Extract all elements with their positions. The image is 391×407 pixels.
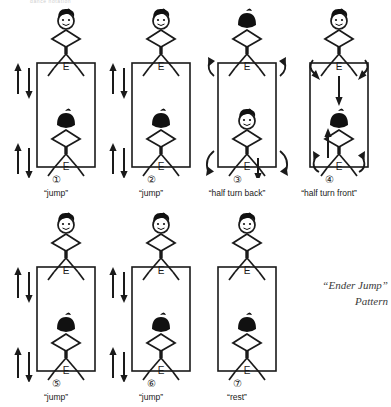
notation-sheet: dance notation E <box>0 0 391 407</box>
panel-5-label: “jump” <box>8 392 104 402</box>
panel-6-number: ⑥ <box>103 378 199 389</box>
panel-1-number: ① <box>8 174 104 185</box>
panel-5-art: E E <box>8 212 104 382</box>
arrow-pair-lower <box>14 347 32 382</box>
panel-7-label: “rest” <box>189 392 285 402</box>
foot-mark-top: E <box>158 61 165 72</box>
panel-1: E E ① “jump” <box>8 8 104 194</box>
pattern-title-line1: “Ender Jump” <box>288 278 388 294</box>
panel-7: E E ⑦ “rest” <box>198 212 294 398</box>
curved-arrow-bottom-right-out <box>358 151 365 172</box>
panel-3-number: ③ <box>189 174 285 185</box>
foot-mark-top: E <box>336 61 343 72</box>
panel-7-art: E E <box>198 212 294 382</box>
arrow-pair-upper <box>109 63 127 99</box>
panel-7-number: ⑦ <box>189 378 285 389</box>
panel-3: E E <box>198 8 294 194</box>
foot-mark-top: E <box>158 265 165 276</box>
foot-mark-top: E <box>63 265 70 276</box>
pattern-title-line2: Pattern <box>288 294 388 310</box>
panel-2: E E ② “jump” <box>103 8 199 194</box>
page-header-fragment: dance notation <box>30 0 71 4</box>
foot-mark-top: E <box>244 265 251 276</box>
foot-mark-top: E <box>244 61 251 72</box>
panel-1-art: E E <box>8 8 104 178</box>
arrow-down-center <box>335 76 342 106</box>
panel-6-art: E E <box>103 212 199 382</box>
panel-5-number: ⑤ <box>8 378 104 389</box>
arrow-pair-lower <box>109 143 127 178</box>
foot-mark-bottom: E <box>336 161 343 172</box>
curved-arrow-top-right <box>279 57 286 76</box>
panel-4: E E <box>293 8 389 194</box>
foot-mark-bottom: E <box>63 161 70 172</box>
panel-6-label: “jump” <box>103 392 199 402</box>
curved-arrow-bottom-left-out <box>313 151 320 172</box>
arrow-pair-upper <box>14 267 32 303</box>
panel-4-label: “half turn front” <box>267 188 391 198</box>
panel-4-number: ④ <box>281 174 377 185</box>
foot-mark-bottom: E <box>63 365 70 376</box>
curved-arrow-top-left <box>208 57 215 76</box>
pattern-title-block: “Ender Jump” Pattern <box>288 278 388 310</box>
arrow-pair-upper <box>14 63 32 99</box>
panel-5: E E ⑤ “jump” <box>8 212 104 398</box>
curved-arrow-bottom-right <box>280 151 288 176</box>
foot-mark-bottom: E <box>158 161 165 172</box>
panel-6: E E ⑥ “jump” <box>103 212 199 398</box>
panel-4-art: E E <box>293 8 389 178</box>
curved-arrow-bottom-left <box>206 151 214 176</box>
panel-2-number: ② <box>103 174 199 185</box>
panel-1-label: “jump” <box>8 188 104 198</box>
panel-3-art: E E <box>198 8 294 178</box>
foot-mark-bottom: E <box>244 161 251 172</box>
arrow-pair-lower <box>14 143 32 178</box>
foot-mark-top: E <box>63 61 70 72</box>
foot-mark-bottom: E <box>244 365 251 376</box>
arrow-pair-lower <box>109 347 127 382</box>
foot-mark-bottom: E <box>158 365 165 376</box>
panel-2-art: E E <box>103 8 199 178</box>
arrow-pair-upper <box>109 267 127 303</box>
